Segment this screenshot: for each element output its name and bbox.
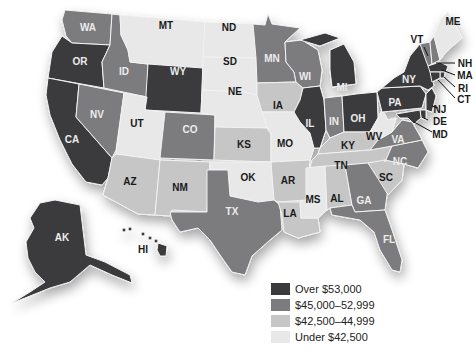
state-label-hi: HI xyxy=(138,244,148,255)
state-label-ri: RI xyxy=(458,83,468,94)
legend-swatch xyxy=(271,315,290,327)
legend: Over $53,000 $45,000–52,999 $42,500–44,9… xyxy=(271,281,375,345)
state-ak[interactable] xyxy=(12,200,132,303)
legend-swatch xyxy=(271,283,290,295)
state-label-ms: MS xyxy=(306,194,321,205)
state-label-wv: WV xyxy=(366,131,382,142)
state-label-ny: NY xyxy=(402,74,416,85)
state-label-ks: KS xyxy=(237,139,251,150)
state-label-ok: OK xyxy=(241,172,257,183)
state-co[interactable] xyxy=(160,112,215,160)
state-label-nd: ND xyxy=(222,22,236,33)
state-label-md: MD xyxy=(432,129,448,140)
state-label-sc: SC xyxy=(379,172,393,183)
state-label-ca: CA xyxy=(65,134,79,145)
legend-swatch xyxy=(271,299,290,311)
legend-item-42500-44999: $42,500–44,999 xyxy=(271,313,375,329)
legend-label: $45,000–52,999 xyxy=(295,299,375,311)
state-label-or: OR xyxy=(73,56,89,67)
state-label-ar: AR xyxy=(281,175,296,186)
legend-item-over-53000: Over $53,000 xyxy=(271,281,375,297)
state-label-nc: NC xyxy=(393,156,407,167)
state-label-la: LA xyxy=(283,208,296,219)
state-label-wy: WY xyxy=(170,66,186,77)
state-label-va: VA xyxy=(391,134,404,145)
state-label-ct: CT xyxy=(457,94,470,105)
state-label-ia: IA xyxy=(273,100,283,111)
state-label-az: AZ xyxy=(123,176,136,187)
state-label-mt: MT xyxy=(159,20,173,31)
state-label-mo: MO xyxy=(277,138,293,149)
state-label-nh: NH xyxy=(458,58,472,69)
us-map: WAORCAIDNVMTWYUTCOAZNMNDSDNEKSOKTXMNIAMO… xyxy=(0,0,475,349)
state-label-in: IN xyxy=(329,116,339,127)
state-label-co: CO xyxy=(183,124,198,135)
state-label-mn: MN xyxy=(264,53,280,64)
legend-label: Over $53,000 xyxy=(295,283,362,295)
state-label-ma: MA xyxy=(457,70,473,81)
state-label-tx: TX xyxy=(226,206,239,217)
state-label-id: ID xyxy=(119,66,129,77)
state-label-sd: SD xyxy=(223,56,237,67)
state-label-fl: FL xyxy=(383,234,395,245)
legend-item-45000-52999: $45,000–52,999 xyxy=(271,297,375,313)
state-label-ky: KY xyxy=(341,140,355,151)
state-label-nj: NJ xyxy=(434,104,447,115)
state-label-wi: WI xyxy=(299,71,311,82)
state-label-oh: OH xyxy=(351,113,366,124)
legend-label: $42,500–44,999 xyxy=(295,315,375,327)
state-label-me: ME xyxy=(446,16,461,27)
state-label-ut: UT xyxy=(130,118,143,129)
state-label-nv: NV xyxy=(90,109,104,120)
legend-swatch xyxy=(271,331,290,343)
state-label-vt: VT xyxy=(411,34,424,45)
state-label-il: IL xyxy=(306,118,315,129)
legend-item-under-42500: Under $42,500 xyxy=(271,329,375,345)
state-label-wa: WA xyxy=(80,22,96,33)
state-label-ak: AK xyxy=(55,232,70,243)
state-label-ga: GA xyxy=(357,195,372,206)
state-label-ne: NE xyxy=(228,86,242,97)
state-label-tn: TN xyxy=(334,160,347,171)
legend-label: Under $42,500 xyxy=(295,331,368,343)
state-label-pa: PA xyxy=(388,97,401,108)
state-label-mi: MI xyxy=(336,82,347,93)
state-label-nm: NM xyxy=(172,182,188,193)
state-label-de: DE xyxy=(433,116,447,127)
state-label-al: AL xyxy=(330,193,343,204)
